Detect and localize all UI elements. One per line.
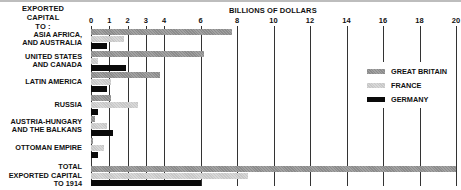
- gridline: [383, 26, 384, 62]
- bar-gb: [91, 51, 204, 57]
- gridline: [347, 26, 348, 186]
- x-tick-label: 20: [452, 16, 460, 25]
- category-label: AUSTRIA-HUNGARYAND THE BALKANS: [11, 118, 82, 135]
- category-label-line: LATIN AMERICA: [25, 78, 82, 86]
- bar-fr: [91, 145, 104, 151]
- x-tick-label: 8: [235, 16, 239, 25]
- category-label-line: TO 1914: [9, 180, 82, 188]
- legend-swatch-fr: [367, 83, 385, 88]
- bar-de: [91, 152, 98, 158]
- category-axis-title: EXPORTED CAPITAL TO :: [6, 4, 80, 31]
- legend-item-gb: GREAT BRITAIN: [367, 67, 447, 76]
- category-label: RUSSIA: [54, 101, 82, 109]
- legend-label: FRANCE: [391, 81, 421, 90]
- legend-label: GERMANY: [391, 95, 428, 104]
- bar-gb: [91, 72, 160, 78]
- category-label: UNITED STATESAND CANADA: [25, 53, 82, 70]
- bar-de: [91, 86, 107, 92]
- bar-gb: [91, 95, 111, 101]
- value-axis-title: BILLIONS OF DOLLARS: [229, 6, 317, 15]
- legend-swatch-de: [367, 97, 385, 102]
- bar-de: [91, 180, 201, 186]
- x-tick-label: 10: [269, 16, 277, 25]
- bar-fr: [91, 123, 107, 129]
- category-label-line: AND AUSTRALIA: [22, 39, 82, 47]
- gridline: [201, 26, 202, 186]
- bar-de: [91, 65, 126, 71]
- gridline: [274, 26, 275, 186]
- bar-de: [91, 109, 98, 115]
- gridline: [456, 26, 457, 186]
- bar-fr: [91, 102, 138, 108]
- legend-item-fr: FRANCE: [367, 81, 421, 90]
- x-tick-label: 3: [144, 16, 148, 25]
- gridline: [146, 26, 147, 186]
- category-label-line: RUSSIA: [54, 101, 82, 109]
- gridline: [383, 108, 384, 186]
- x-tick-label: 16: [379, 16, 387, 25]
- bar-gb: [91, 116, 95, 122]
- category-label-line: AND CANADA: [25, 61, 82, 69]
- category-label-line: OTTOMAN EMPIRE: [15, 144, 82, 152]
- gridline: [310, 26, 311, 186]
- category-axis-title-line1: EXPORTED CAPITAL: [6, 4, 80, 22]
- bar-gb: [91, 166, 456, 172]
- x-tick-label: 4: [162, 16, 166, 25]
- bar-fr: [91, 58, 98, 64]
- category-label-line: AND THE BALKANS: [11, 126, 82, 134]
- x-tick-label: 14: [342, 16, 350, 25]
- x-tick-label: 6: [198, 16, 202, 25]
- bar-fr: [91, 36, 124, 42]
- gridline: [420, 26, 421, 62]
- bar-fr: [91, 79, 111, 85]
- legend-swatch-gb: [367, 69, 385, 74]
- bar-gb: [91, 29, 232, 35]
- bar-de: [91, 43, 107, 49]
- gridline: [420, 108, 421, 186]
- bar-gb: [91, 138, 93, 144]
- gridline: [237, 26, 238, 186]
- category-label: OTTOMAN EMPIRE: [15, 144, 82, 152]
- x-tick-label: 18: [415, 16, 423, 25]
- category-label: TOTALEXPORTED CAPITALTO 1914: [9, 163, 82, 188]
- legend-label: GREAT BRITAIN: [391, 67, 447, 76]
- bar-fr: [91, 173, 248, 179]
- gridline: [164, 26, 165, 186]
- category-label: LATIN AMERICA: [25, 78, 82, 86]
- category-label: ASIA AFRICA,AND AUSTRALIA: [22, 31, 82, 48]
- x-tick-label: 12: [306, 16, 314, 25]
- legend-item-de: GERMANY: [367, 95, 428, 104]
- bar-de: [91, 130, 113, 136]
- x-tick-label: 0: [89, 16, 93, 25]
- x-tick-label: 2: [125, 16, 129, 25]
- top-rule: [0, 0, 461, 2]
- x-tick-label: 1: [107, 16, 111, 25]
